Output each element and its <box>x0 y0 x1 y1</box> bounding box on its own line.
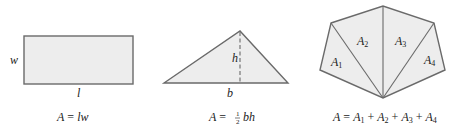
formula-term-subscript: 4 <box>433 116 437 125</box>
rectangle-shape <box>24 36 133 84</box>
fraction-numerator: 1 <box>236 110 240 118</box>
triangle-figure: h b A = 1 2 bh <box>164 31 288 126</box>
formula-equals: = <box>340 110 353 124</box>
triangle-area-formula: A = 1 2 bh <box>208 110 255 126</box>
region-label-subscript: 1 <box>338 61 342 70</box>
rectangle-width-label: w <box>10 53 18 67</box>
triangle-base-label: b <box>227 86 233 100</box>
region-label-subscript: 4 <box>431 59 435 68</box>
formula-plus: + <box>389 110 402 124</box>
formula-plus: + <box>413 110 426 124</box>
svg-text:bh: bh <box>243 110 255 124</box>
svg-text:A =: A = <box>208 110 229 124</box>
fraction-denominator: 2 <box>236 118 240 126</box>
polygon-area-formula: A = A1 + A2 + A3 + A4 <box>332 110 437 125</box>
triangle-height-label: h <box>232 51 238 65</box>
rectangle-figure: w l A = lw <box>10 36 133 124</box>
formula-equals: = <box>216 110 229 124</box>
triangle-shape <box>164 31 288 83</box>
formula-plus: + <box>364 110 377 124</box>
formula-rhs: lw <box>77 110 88 124</box>
polygon-figure: A1 A2 A3 A4 A = A1 + A2 + A3 + A4 <box>320 6 445 125</box>
area-formulas-diagram: w l A = lw h b A = 1 2 bh A1 <box>0 0 460 131</box>
region-label-subscript: 2 <box>364 40 368 49</box>
rectangle-length-label: l <box>77 86 81 100</box>
formula-equals: = <box>64 110 77 124</box>
rectangle-area-formula: A = lw <box>56 110 88 124</box>
region-label-subscript: 3 <box>402 40 406 49</box>
formula-rhs: bh <box>243 110 255 124</box>
